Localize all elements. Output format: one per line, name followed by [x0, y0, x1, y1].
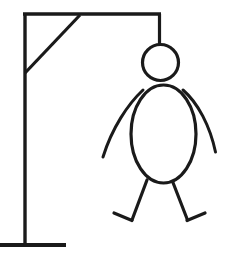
hangman-canvas [0, 0, 226, 255]
figure-body [131, 85, 196, 183]
hangman-drawing [0, 0, 226, 255]
figure-head [143, 45, 179, 81]
